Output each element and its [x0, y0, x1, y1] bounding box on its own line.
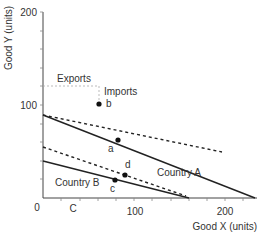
y-axis-title: Good Y (units): [3, 6, 14, 70]
x-tick-100: 100: [127, 206, 144, 217]
label-c: c: [110, 183, 115, 194]
x-axis-title: Good X (units): [193, 221, 257, 232]
point-c: [112, 177, 117, 182]
axes: [40, 12, 257, 201]
country-b-label: Country B: [55, 177, 100, 188]
imports-label: Imports: [104, 86, 137, 97]
origin-label: 0: [34, 202, 40, 213]
point-b: [96, 101, 101, 106]
x-tick-200: 200: [217, 206, 234, 217]
ppf-trade-chart: 200 100 0 100 200 C Good Y (units) Good …: [0, 0, 264, 236]
country-a-label: Country A: [157, 167, 201, 178]
label-a: a: [108, 143, 114, 154]
trade-guide: [43, 86, 99, 104]
country-a-trade-line: [43, 115, 222, 152]
label-d: d: [125, 159, 131, 170]
exports-label: Exports: [57, 73, 91, 84]
y-tick-200: 200: [20, 7, 37, 18]
point-a: [115, 137, 120, 142]
label-b: b: [106, 98, 112, 109]
point-d: [122, 172, 127, 177]
y-tick-100: 100: [20, 100, 37, 111]
c-axis-label: C: [69, 203, 76, 214]
